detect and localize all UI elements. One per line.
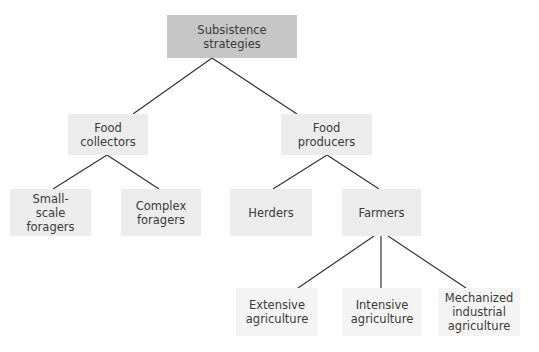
- node-small-scale-foragers: Small- scale foragers: [10, 189, 91, 236]
- node-food-collectors: Food collectors: [68, 114, 148, 155]
- node-label: Small- scale foragers: [27, 192, 75, 234]
- edge-root-food-producers: [212, 58, 297, 114]
- edge-farmers-extensive-agriculture: [298, 236, 374, 288]
- edge-food-collectors-complex-foragers: [107, 155, 159, 189]
- node-food-producers: Food producers: [281, 114, 372, 155]
- edge-food-collectors-small-scale-foragers: [53, 155, 107, 189]
- node-label: Extensive agriculture: [246, 298, 308, 326]
- node-label: Farmers: [358, 206, 404, 220]
- edge-food-producers-herders: [273, 155, 327, 189]
- node-label: Intensive agriculture: [351, 298, 413, 326]
- edge-root-food-collectors: [133, 58, 212, 114]
- node-label: Complex foragers: [136, 199, 186, 227]
- edge-food-producers-farmers: [327, 155, 379, 189]
- node-label: Food collectors: [80, 121, 135, 149]
- node-label: Subsistence strategies: [197, 23, 266, 51]
- node-subsistence-strategies: Subsistence strategies: [167, 15, 297, 58]
- node-herders: Herders: [230, 189, 312, 236]
- node-farmers: Farmers: [342, 189, 421, 236]
- node-label: Herders: [248, 206, 293, 220]
- node-mechanized-industrial-agriculture: Mechanized industrial agriculture: [438, 288, 520, 336]
- node-extensive-agriculture: Extensive agriculture: [236, 288, 318, 336]
- edge-farmers-mechanized-industrial-agriculture: [388, 236, 466, 288]
- node-intensive-agriculture: Intensive agriculture: [342, 288, 422, 336]
- node-label: Food producers: [298, 121, 356, 149]
- node-complex-foragers: Complex foragers: [121, 189, 201, 236]
- node-label: Mechanized industrial agriculture: [445, 291, 514, 333]
